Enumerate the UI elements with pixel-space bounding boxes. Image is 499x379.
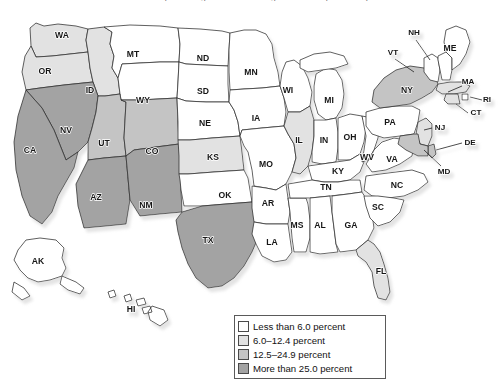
state-label-TN: TN: [320, 182, 331, 192]
legend-swatch-1: [238, 321, 249, 332]
state-label-FL: FL: [376, 266, 387, 276]
legend-swatch-2: [238, 335, 249, 346]
state-label-IL: IL: [295, 135, 303, 145]
state-RI: [462, 94, 468, 100]
state-label-CT: CT: [471, 108, 482, 117]
state-label-KY: KY: [332, 166, 344, 176]
state-label-AR: AR: [262, 198, 275, 208]
state-label-ND: ND: [197, 53, 209, 63]
state-label-IA: IA: [252, 113, 261, 123]
state-AK: [12, 238, 84, 300]
state-label-WA: WA: [55, 30, 69, 40]
state-label-DE: DE: [464, 138, 476, 147]
state-label-UT: UT: [98, 138, 110, 148]
state-MN: [229, 30, 280, 90]
state-label-MO: MO: [259, 159, 273, 169]
state-label-AK: AK: [32, 256, 45, 266]
state-label-MI: MI: [324, 95, 334, 105]
state-label-ME: ME: [444, 43, 457, 53]
state-label-NC: NC: [391, 180, 403, 190]
state-label-AL: AL: [314, 220, 325, 230]
legend-item: Less than 6.0 percent: [238, 319, 381, 333]
state-CT: [444, 94, 460, 104]
state-label-NJ: NJ: [435, 123, 445, 132]
legend-label-4: More than 25.0 percent: [253, 363, 352, 374]
state-label-SD: SD: [197, 86, 209, 96]
state-label-NM: NM: [139, 200, 152, 210]
state-AZ: [76, 156, 130, 228]
state-label-MN: MN: [244, 67, 257, 77]
state-HI: [108, 290, 168, 326]
legend-item: 6.0–12.4 percent: [238, 333, 381, 347]
state-label-NE: NE: [199, 118, 211, 128]
state-label-WI: WI: [283, 85, 294, 95]
legend-label-2: 6.0–12.4 percent: [253, 335, 325, 346]
state-label-TX: TX: [203, 235, 214, 245]
state-TX: [176, 202, 262, 288]
state-label-MD: MD: [438, 167, 451, 176]
state-label-LA: LA: [266, 237, 277, 247]
state-label-KS: KS: [207, 152, 219, 162]
legend-label-1: Less than 6.0 percent: [253, 321, 345, 332]
state-label-NH: NH: [408, 28, 420, 37]
state-label-RI: RI: [483, 95, 491, 104]
state-label-NV: NV: [60, 125, 72, 135]
state-label-PA: PA: [384, 117, 395, 127]
state-MI: [314, 68, 344, 120]
legend-swatch-4: [238, 363, 249, 374]
state-label-CO: CO: [146, 146, 159, 156]
state-label-MA: MA: [462, 77, 475, 86]
legend-label-3: 12.5–24.9 percent: [253, 349, 330, 360]
state-label-VA: VA: [386, 154, 397, 164]
state-label-OH: OH: [344, 132, 357, 142]
state-label-GA: GA: [345, 220, 358, 230]
state-label-OR: OR: [39, 66, 53, 76]
state-label-WY: WY: [136, 95, 150, 105]
state-label-NY: NY: [401, 85, 413, 95]
map-legend: Less than 6.0 percent 6.0–12.4 percent 1…: [234, 315, 386, 379]
state-label-MS: MS: [291, 220, 304, 230]
states-layer: WAORCANVIDMTWYUTAZCONMNDSDNEKSOKTXMNIAMO…: [12, 23, 491, 326]
state-label-ID: ID: [86, 85, 95, 95]
state-DE: [428, 144, 436, 158]
state-label-VT: VT: [388, 48, 398, 57]
state-label-WV: WV: [360, 152, 374, 162]
legend-swatch-3: [238, 349, 249, 360]
state-label-HI: HI: [127, 304, 136, 314]
state-MI-up: [300, 52, 348, 72]
legend-item: 12.5–24.9 percent: [238, 347, 381, 361]
state-label-SC: SC: [372, 202, 384, 212]
state-label-IN: IN: [320, 135, 329, 145]
state-label-MT: MT: [127, 49, 140, 59]
legend-item: More than 25.0 percent: [238, 361, 381, 375]
state-label-CA: CA: [24, 145, 36, 155]
state-label-OK: OK: [219, 190, 233, 200]
state-label-AZ: AZ: [90, 192, 101, 202]
state-OK: [179, 170, 252, 206]
